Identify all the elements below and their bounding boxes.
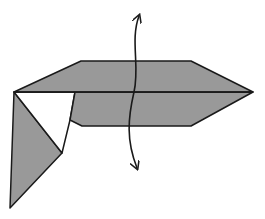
origami-diagram bbox=[0, 0, 265, 219]
upper-flap bbox=[14, 61, 253, 92]
lower-flap bbox=[70, 92, 253, 126]
